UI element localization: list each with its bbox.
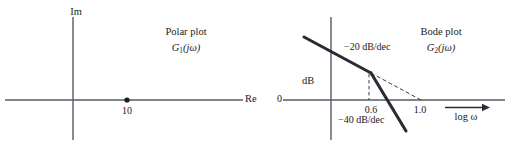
polar-plot-title: Polar plot [165,27,206,38]
bode-plot-title: Bode plot [420,27,461,38]
polar-imaginary-axis-label: Im [70,7,82,18]
figure-container: Im Re 10 Polar plot G1(jω) dB 0 0.6 1.0 … [0,0,516,147]
polar-plot-function-label: G1(jω) [172,43,201,54]
polar-point-value-label: 10 [122,106,132,116]
bode-slope-label-minus-40: −40 dB/dec [338,115,384,125]
polar-point-marker [124,97,129,102]
bode-zero-tick-label: 0 [277,94,282,104]
bode-function-base: G [427,42,435,53]
figure-vector-graphics [0,0,516,147]
bode-slope-label-minus-20: −20 dB/dec [344,42,390,52]
bode-frequency-axis-label: log ω [455,112,478,123]
polar-real-axis-label: Re [245,94,257,105]
polar-function-base: G [172,42,180,53]
bode-tick-label-1-0: 1.0 [414,105,427,115]
bode-plot-function-label: G2(jω) [427,43,456,54]
polar-plot-group [5,17,243,140]
polar-function-argument: (jω) [183,42,200,53]
frequency-axis-text: log ω [455,111,478,122]
bode-function-argument: (jω) [438,42,455,53]
bode-magnitude-axis-label: dB [302,76,314,87]
